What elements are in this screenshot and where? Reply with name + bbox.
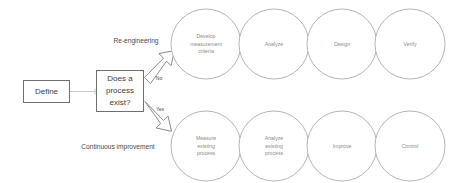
decision-box-line2: process [106,86,134,95]
step-label-line: existing [197,143,215,149]
step-node-develop-measurement-criteria[interactable]: Develop measurement criteria [171,9,241,79]
step-label-line: process [197,150,216,156]
flow-canvas: Define Does a process exist? No Yes Re-e… [0,0,450,183]
process-flow-diagram: Define Does a process exist? No Yes Re-e… [0,0,450,183]
step-node-measure-existing-process[interactable]: Measure existing process [171,111,241,181]
decision-box-line3: exist? [110,98,131,107]
step-label-line: criteria [198,48,214,54]
step-label-line: process [265,150,284,156]
decision-box-process-exists[interactable]: Does a process exist? [97,71,144,112]
step-node-analyze[interactable]: Analyze [239,9,309,79]
branch-label-yes: Yes [156,106,165,112]
step-label-line: Measure [196,135,216,141]
step-node-verify[interactable]: Verify [375,9,445,79]
step-label-line: existing [265,143,283,149]
decision-box-line1: Does a [107,74,133,83]
connector-define-to-decision [68,89,96,95]
path-label-continuous-improvement: Continuous improvement [81,143,154,151]
step-label-line: Analyze [265,41,284,47]
step-node-analyze-existing-process[interactable]: Analyze existing process [239,111,309,181]
start-box-define[interactable]: Define [24,81,70,103]
step-node-improve[interactable]: Improve [307,111,377,181]
step-label-line: Design [334,41,350,47]
path-label-re-engineering: Re-engineering [113,37,158,45]
step-node-control[interactable]: Control [375,111,445,181]
start-box-label: Define [35,87,59,96]
step-node-design[interactable]: Design [307,9,377,79]
branch-label-no: No [156,75,163,81]
step-label-line: Control [402,143,419,149]
step-label-line: Analyze [265,135,284,141]
step-label-line: Verify [404,41,417,47]
step-label-line: Develop [196,33,215,39]
step-label-line: Improve [333,143,352,149]
step-label-line: measurement [190,41,222,47]
